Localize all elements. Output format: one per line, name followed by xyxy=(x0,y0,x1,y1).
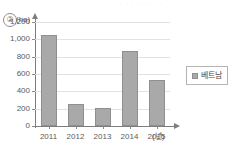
y-axis-tick-label: 200 xyxy=(17,105,30,113)
y-axis-tick xyxy=(32,91,35,92)
y-axis-tick xyxy=(32,57,35,58)
bar-2013 xyxy=(95,108,111,126)
y-axis-tick xyxy=(32,109,35,110)
x-axis-tick xyxy=(76,126,77,129)
bar-2015 xyxy=(149,80,165,126)
y-axis-tick-label: 400 xyxy=(17,87,30,95)
x-axis-unit-label: (년) xyxy=(152,132,164,141)
y-axis-arrow-icon xyxy=(32,13,38,19)
gridline xyxy=(35,22,170,23)
x-axis-arrow-icon xyxy=(174,123,180,129)
y-axis-tick-label: 1,000 xyxy=(10,35,30,43)
legend-label: 베트남 xyxy=(201,71,222,80)
x-axis-tick-label: 2012 xyxy=(67,132,85,141)
y-axis-tick-label: 600 xyxy=(17,70,30,78)
y-axis-tick xyxy=(32,39,35,40)
bar-2011 xyxy=(41,35,57,126)
bar-2014 xyxy=(122,51,138,126)
y-axis-tick-label: 0 xyxy=(26,122,30,130)
y-axis-tick-label: 800 xyxy=(17,53,30,61)
x-axis-tick xyxy=(49,126,50,129)
plot-area: 02004006008001,0001,20020112012201320142… xyxy=(35,22,170,126)
chart-figure: ② · · · · · · · · (ha) 02004006008001,00… xyxy=(0,0,244,153)
x-axis-tick-label: 2013 xyxy=(94,132,112,141)
x-axis-tick xyxy=(103,126,104,129)
chart-legend: 베트남 xyxy=(186,66,228,85)
y-axis-tick xyxy=(32,74,35,75)
x-axis-tick-label: 2011 xyxy=(40,132,57,141)
y-axis-tick xyxy=(32,126,35,127)
x-axis-line xyxy=(35,126,175,127)
page-bleed-text: · · · · · · · · xyxy=(120,1,235,8)
legend-swatch-icon xyxy=(192,73,198,79)
x-axis-tick xyxy=(157,126,158,129)
y-axis-tick xyxy=(32,22,35,23)
x-axis-tick xyxy=(130,126,131,129)
x-axis-tick-label: 2014 xyxy=(121,132,139,141)
y-axis-tick-label: 1,200 xyxy=(10,18,30,26)
bar-2012 xyxy=(68,104,84,126)
